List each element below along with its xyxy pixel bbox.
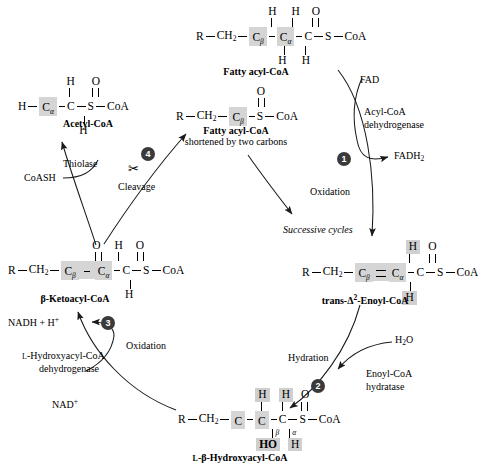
coa-group: CoA bbox=[163, 265, 185, 277]
h-label: H bbox=[279, 388, 293, 402]
c-alpha: C bbox=[255, 411, 269, 429]
molecule-beta-ketoacyl-coa: O H O R CH2 Cβ Cα C S CoA bbox=[8, 240, 184, 301]
o-label: O bbox=[92, 240, 100, 252]
cofactor-nad-plus: NAD+ bbox=[52, 397, 78, 410]
cofactor-fadh2: FADH2 bbox=[394, 150, 424, 163]
h-label: H bbox=[406, 240, 420, 254]
enzyme-hydroxyacyl-dehydrogenase-line2: dehydrogenase bbox=[39, 363, 99, 374]
bond-beta-alpha bbox=[79, 261, 95, 279]
r-group: R bbox=[302, 267, 310, 279]
c-beta: Cβ bbox=[229, 107, 246, 127]
coa-group: CoA bbox=[345, 31, 367, 43]
molecule-fatty-acyl-coa-shortened: O R CH2 Cβ S CoA bbox=[176, 86, 298, 126]
label-trans-enoyl-coa: trans-Δ2-Enoyl-CoA bbox=[300, 293, 430, 306]
reaction-oxidation-1: Oxidation bbox=[310, 186, 350, 197]
ch2-group: CH2 bbox=[197, 110, 217, 123]
cofactor-nadh: NADH + H+ bbox=[8, 315, 59, 328]
step-badge-3[interactable]: 3 bbox=[101, 316, 115, 330]
c-alpha: Cα bbox=[39, 97, 57, 117]
o-label: O bbox=[257, 86, 265, 98]
label-prefix-trans: trans- bbox=[322, 295, 348, 306]
h-label: H bbox=[291, 6, 299, 18]
c-alpha: Cα bbox=[95, 261, 113, 281]
s-atom: S bbox=[257, 111, 263, 123]
scissors-icon: ✂ bbox=[128, 162, 139, 175]
c-beta: Cβ bbox=[61, 261, 78, 281]
alpha-subscript: α bbox=[292, 429, 296, 437]
o-label: O bbox=[92, 76, 100, 88]
h-label: H bbox=[255, 388, 269, 402]
cofactor-water: H2O bbox=[395, 334, 413, 347]
enzyme-thiolase: Thiolase bbox=[63, 158, 97, 169]
enzyme-hydroxyacyl-rest: -Hydroxyacyl-CoA bbox=[27, 350, 105, 361]
ch2-group: CH2 bbox=[199, 413, 219, 426]
label-fatty-acyl-coa-shortened: Fatty acyl-CoA bbox=[176, 125, 296, 136]
label-fatty-acyl-coa-shortened-sub: shortened by two carbons bbox=[166, 136, 306, 147]
label-fatty-acyl-coa: Fatty acyl-CoA bbox=[196, 66, 316, 77]
step-badge-1[interactable]: 1 bbox=[337, 152, 351, 166]
c-alpha: Cα bbox=[389, 263, 407, 283]
r-group: R bbox=[176, 111, 184, 123]
o-label: O bbox=[312, 6, 320, 18]
label-beta-ketoacyl-coa: β-Ketoacyl-CoA bbox=[10, 293, 140, 304]
arrow-step3 bbox=[78, 312, 176, 410]
double-bond bbox=[373, 263, 389, 281]
coa-group: CoA bbox=[319, 414, 341, 426]
h-label: H bbox=[288, 438, 302, 452]
o-label: O bbox=[301, 389, 309, 401]
h-label: H bbox=[268, 6, 276, 18]
h-label: H bbox=[67, 76, 75, 88]
ch2-group: CH2 bbox=[29, 264, 49, 277]
c-beta: C bbox=[231, 411, 245, 429]
s-atom: S bbox=[143, 265, 149, 277]
c-beta: Cβ bbox=[355, 263, 372, 283]
s-atom: S bbox=[299, 414, 305, 426]
step-badge-4[interactable]: 4 bbox=[141, 147, 155, 161]
s-atom: S bbox=[325, 31, 331, 43]
molecule-hydroxyacyl-coa: H H O R CH2 C C C S CoA β bbox=[178, 388, 341, 451]
r-group: R bbox=[178, 414, 186, 426]
coa-group: CoA bbox=[107, 101, 129, 113]
h-label: H bbox=[114, 240, 122, 252]
reaction-cleavage-4: Cleavage bbox=[118, 181, 155, 192]
arrow-water-in bbox=[338, 342, 392, 369]
s-atom: S bbox=[437, 267, 443, 279]
enzyme-hydroxyacyl-dehydrogenase-line1: L-Hydroxyacyl-CoA bbox=[22, 350, 105, 361]
enzyme-acyl-coa-dehydrogenase-line2: dehydrogenase bbox=[364, 119, 424, 130]
molecule-fatty-acyl-coa: H H O R CH2 Cβ Cα C S CoA bbox=[196, 6, 366, 67]
arrow-fad-in bbox=[354, 78, 362, 140]
c-carbonyl: C bbox=[122, 265, 130, 277]
arrow-fadh2-out bbox=[357, 140, 388, 159]
c-carbonyl: C bbox=[304, 31, 312, 43]
c-beta: Cβ bbox=[249, 27, 266, 47]
coa-group: CoA bbox=[457, 267, 478, 279]
ch2-group: CH2 bbox=[323, 266, 343, 279]
label-successive-cycles: Successive cycles bbox=[283, 224, 353, 235]
arrow-successive-cycles bbox=[248, 155, 292, 214]
beta-subscript: β bbox=[275, 429, 279, 437]
label-acetyl-coa: Acetyl-CoA bbox=[48, 118, 128, 129]
c-carbonyl: C bbox=[67, 101, 75, 113]
label-ketoacyl-rest: -Ketoacyl-CoA bbox=[46, 293, 110, 304]
cofactor-coash: CoASH bbox=[24, 172, 56, 183]
step-badge-2[interactable]: 2 bbox=[311, 379, 325, 393]
h-label: H bbox=[302, 55, 310, 67]
ch2-group: CH2 bbox=[217, 30, 237, 43]
r-group: R bbox=[8, 265, 16, 277]
c-carbonyl: C bbox=[416, 267, 424, 279]
cofactor-fad: FAD bbox=[360, 74, 379, 85]
reaction-hydration-2: Hydration bbox=[288, 352, 329, 363]
enzyme-enoyl-coa-hydratase-line2: hydratase bbox=[366, 381, 404, 392]
coa-group: CoA bbox=[276, 111, 298, 123]
c-alpha: Cα bbox=[277, 27, 295, 47]
ho-group: HO bbox=[256, 438, 280, 452]
r-group: R bbox=[196, 31, 204, 43]
label-beta: -β- bbox=[198, 452, 210, 463]
h-label: H bbox=[18, 101, 26, 113]
enzyme-acyl-coa-dehydrogenase-line1: Acyl-CoA bbox=[364, 106, 406, 117]
label-hydroxyacyl-rest: Hydroxyacyl-CoA bbox=[210, 452, 288, 463]
label-hydroxyacyl-coa: L-β-Hydroxyacyl-CoA bbox=[160, 452, 320, 463]
o-label: O bbox=[136, 240, 144, 252]
enzyme-enoyl-coa-hydratase-line1: Enoyl-CoA bbox=[366, 368, 412, 379]
